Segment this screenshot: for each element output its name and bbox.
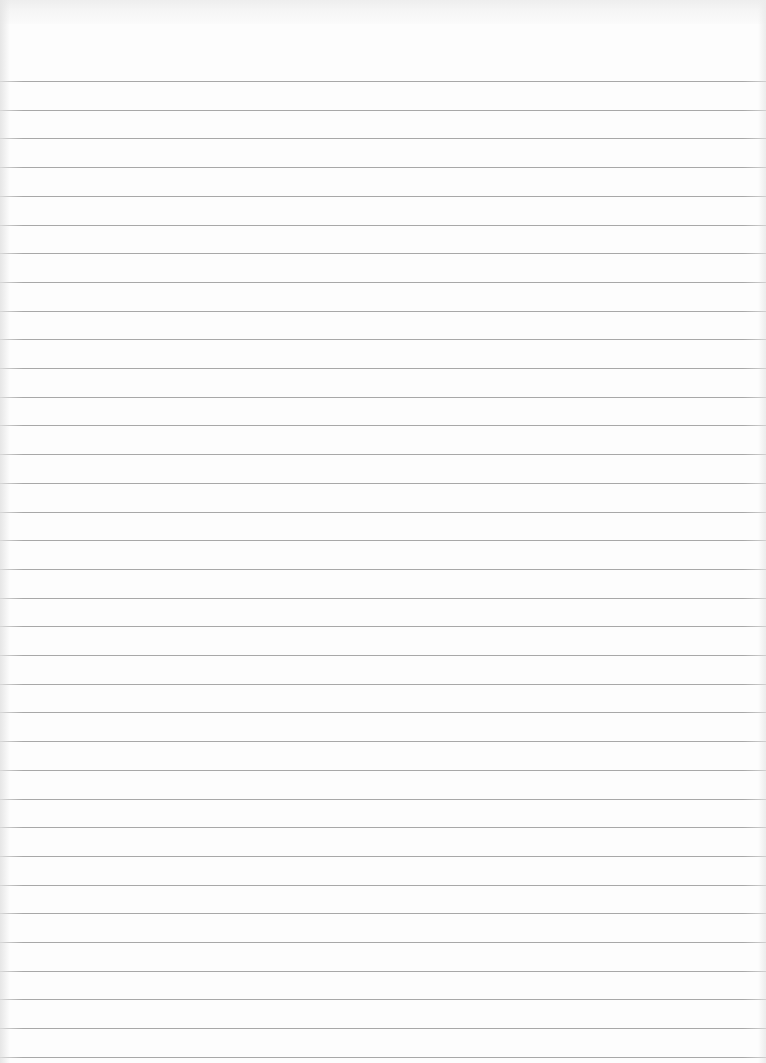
ruled-line [0, 913, 766, 914]
ruled-line [0, 655, 766, 656]
top-margin-strip [0, 0, 766, 24]
ruled-line [0, 138, 766, 139]
ruled-line [0, 81, 766, 82]
ruled-line [0, 598, 766, 599]
lined-paper-sheet [0, 0, 766, 1063]
ruled-line [0, 196, 766, 197]
ruled-line [0, 311, 766, 312]
ruled-line [0, 512, 766, 513]
ruled-line [0, 741, 766, 742]
ruled-line [0, 626, 766, 627]
ruled-line [0, 282, 766, 283]
ruled-line [0, 712, 766, 713]
ruled-line [0, 397, 766, 398]
ruled-line [0, 942, 766, 943]
ruled-line [0, 339, 766, 340]
ruled-line [0, 368, 766, 369]
ruled-line [0, 856, 766, 857]
ruled-line [0, 799, 766, 800]
ruled-line [0, 110, 766, 111]
ruled-line [0, 225, 766, 226]
ruled-line [0, 1028, 766, 1029]
ruled-line [0, 971, 766, 972]
left-edge-shadow [0, 0, 10, 1063]
ruled-line [0, 483, 766, 484]
ruled-line [0, 253, 766, 254]
ruled-line [0, 569, 766, 570]
right-edge-shadow [758, 0, 766, 1063]
ruled-line [0, 999, 766, 1000]
ruled-line [0, 827, 766, 828]
ruled-line [0, 770, 766, 771]
ruled-line [0, 885, 766, 886]
ruled-line [0, 684, 766, 685]
ruled-line [0, 1057, 766, 1058]
ruled-line [0, 167, 766, 168]
ruled-line [0, 454, 766, 455]
ruled-line [0, 425, 766, 426]
ruled-line [0, 540, 766, 541]
